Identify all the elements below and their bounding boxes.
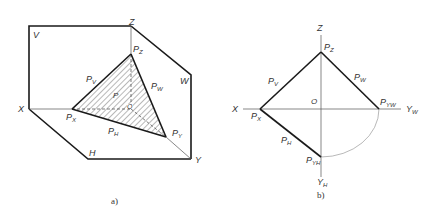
label-pz: PZ [133, 44, 143, 55]
label-py: PY [172, 128, 183, 139]
label-yh-axis: YH [317, 177, 328, 188]
caption-a: a) [111, 196, 118, 206]
label-pv: PV [268, 76, 279, 87]
figure-a: V W H Z X Y O P PZ PV PW PX PH PY a) [17, 17, 202, 206]
label-x-axis: X [231, 104, 239, 114]
label-pw: PW [151, 81, 164, 92]
trace-pw [321, 52, 379, 109]
label-pz: PZ [324, 42, 334, 53]
label-w-plane: W [180, 76, 190, 86]
projection-diagrams: V W H Z X Y O P PZ PV PW PX PH PY a) Z X… [0, 0, 432, 216]
label-pyw: PYW [380, 97, 397, 108]
label-origin: O [311, 97, 317, 106]
rotation-arc [321, 109, 379, 157]
label-ph: PH [108, 126, 119, 137]
label-v-plane: V [33, 30, 40, 40]
label-plane-p: P [113, 91, 119, 100]
label-yw-axis: YW [406, 104, 419, 115]
label-pw: PW [354, 72, 367, 83]
label-ph: PH [281, 135, 292, 146]
label-pv: PV [86, 74, 97, 85]
label-x-axis: X [17, 104, 25, 114]
figure-b: Z X O YW YH PZ PV PW PYW PX PH PYH b) [231, 23, 419, 200]
label-pyh: PYH [306, 155, 321, 166]
trace-ph [260, 109, 321, 157]
label-px: PX [66, 112, 77, 123]
label-px: PX [251, 111, 262, 122]
y-axis-outer [166, 137, 191, 159]
caption-b: b) [317, 190, 325, 200]
label-origin: O [127, 103, 133, 110]
label-z-axis: Z [316, 23, 323, 33]
label-h-plane: H [89, 148, 96, 158]
label-z-axis: Z [128, 17, 135, 27]
label-y-axis: Y [195, 155, 202, 165]
